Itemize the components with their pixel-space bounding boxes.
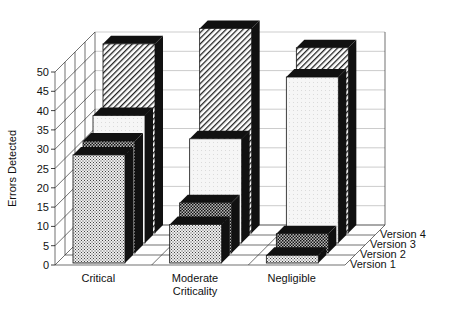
bar — [170, 224, 222, 263]
y-tick-label: 40 — [37, 105, 49, 117]
y-tick-label: 10 — [37, 220, 49, 232]
category-label: Critical — [82, 272, 116, 284]
bar-chart-3d: 05101520253035404550Errors DetectedCriti… — [0, 0, 453, 309]
bar — [286, 77, 338, 243]
y-tick-label: 5 — [43, 240, 49, 252]
y-tick-label: 15 — [37, 201, 49, 213]
y-axis: 05101520253035404550 — [37, 66, 55, 271]
series-label: Version 4 — [380, 228, 426, 240]
bar — [73, 155, 125, 263]
series-labels: Version 1Version 2Version 3Version 4 — [350, 228, 426, 270]
category-label: Moderate — [172, 272, 218, 284]
y-tick-label: 45 — [37, 85, 49, 97]
y-tick-label: 35 — [37, 124, 49, 136]
y-tick-label: 30 — [37, 143, 49, 155]
y-tick-label: 20 — [37, 182, 49, 194]
bar — [266, 255, 318, 263]
y-tick-label: 25 — [37, 163, 49, 175]
y-tick-label: 50 — [37, 66, 49, 78]
y-tick-label: 0 — [43, 259, 49, 271]
category-label: Negligible — [268, 272, 316, 284]
chart-container: 05101520253035404550Errors DetectedCriti… — [0, 0, 453, 309]
y-axis-title: Errors Detected — [6, 130, 18, 207]
x-axis-labels: CriticalModerateCriticalityNegligible — [82, 272, 316, 297]
category-label: Criticality — [173, 285, 218, 297]
